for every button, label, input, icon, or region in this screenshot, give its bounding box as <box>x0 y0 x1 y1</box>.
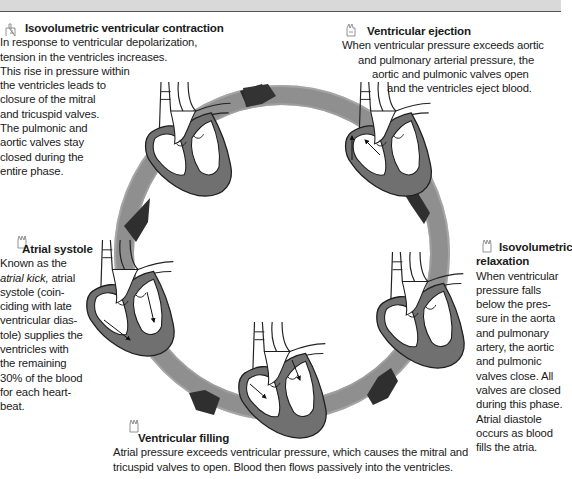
phase-ventricular-ejection: Ventricular ejection When ventricular pr… <box>342 24 561 95</box>
phase-text-line: beat. <box>0 399 90 413</box>
phase-text-line: sure in the aorta <box>476 311 566 325</box>
phase-text-line: occurs as blood <box>476 426 566 440</box>
phase-text-line: Known as the <box>0 256 90 270</box>
phase-text-line: tension in the ventricles increases. <box>0 50 260 64</box>
phase-text-line: for each heart- <box>0 385 90 399</box>
phase-text-line: This rise in pressure within <box>0 64 260 78</box>
phase-text-line: artery, the aortic <box>476 340 566 354</box>
phase-heading-cont: relaxation <box>476 254 566 268</box>
phase-atrial-systole: Atrial systole Known as the atrial kick,… <box>0 242 90 414</box>
phase-text-line: and the ventricles eject blood. <box>342 81 561 95</box>
phase-isovolumetric-relaxation: Isovolumetric relaxation When ventricula… <box>476 240 566 454</box>
atrial-kick-term: atrial kick, <box>0 272 48 284</box>
phase-text-line: Atrial diastole <box>476 412 566 426</box>
phase-text-line: systole (coin- <box>0 285 90 299</box>
phase-text-line: When ventricular <box>476 269 566 283</box>
phase-heading: Isovolumetric ventricular contraction <box>0 21 260 35</box>
phase-text-line: Atrial pressure exceeds ventricular pres… <box>113 445 473 459</box>
phase-text-line: closed during the <box>0 150 260 164</box>
phase-text-line: during this phase. <box>476 397 566 411</box>
phase-text-fragment: atrial <box>48 272 75 284</box>
phase-text-line: closure of the mitral <box>0 92 260 106</box>
phase-text-line: The pulmonic and <box>0 121 260 135</box>
phase-heading: Atrial systole <box>0 242 90 256</box>
heart-relaxation-illustration <box>377 252 464 368</box>
phase-heading: Ventricular filling <box>113 431 473 445</box>
phase-heading: Isovolumetric <box>476 240 566 254</box>
phase-text-line: the ventricles leads to <box>0 78 260 92</box>
phase-text-line: entire phase. <box>0 164 260 178</box>
phase-text-line: ciding with late <box>0 299 90 313</box>
heart-filling-illustration <box>239 322 326 438</box>
phase-isovolumetric-contraction: Isovolumetric ventricular contraction In… <box>0 21 260 178</box>
phase-text-line: tricuspid valves to open. Blood then flo… <box>113 460 473 474</box>
phase-text-line: and pulmonary arterial pressure, the <box>342 53 561 67</box>
phase-text-line: fills the atria. <box>476 440 566 454</box>
heart-ejection-illustration <box>346 82 432 196</box>
phase-text-line: valves close. All <box>476 369 566 383</box>
phase-text-line: When ventricular pressure exceeds aortic <box>342 38 561 52</box>
phase-text-line: 30% of the blood <box>0 371 90 385</box>
phase-text-line: valves are closed <box>476 383 566 397</box>
phase-text-line: In response to ventricular depolarizatio… <box>0 35 260 49</box>
phase-text-line: ventricles with <box>0 342 90 356</box>
phase-text-line: below the pres- <box>476 297 566 311</box>
phase-ventricular-filling: Ventricular filling Atrial pressure exce… <box>113 431 473 474</box>
phase-text-line: aortic and pulmonic valves open <box>342 67 561 81</box>
phase-text-line: aortic valves stay <box>0 135 260 149</box>
phase-text-line: and tricuspid valves. <box>0 107 260 121</box>
phase-text-line: tole) supplies the <box>0 328 90 342</box>
phase-text-line: atrial kick, atrial <box>0 271 90 285</box>
phase-heading: Ventricular ejection <box>342 24 561 38</box>
phase-text-line: ventricular dias- <box>0 313 90 327</box>
phase-text-line: and pulmonary <box>476 326 566 340</box>
phase-text-line: the remaining <box>0 356 90 370</box>
phase-text-line: and pulmonic <box>476 354 566 368</box>
phase-text-line: pressure falls <box>476 283 566 297</box>
